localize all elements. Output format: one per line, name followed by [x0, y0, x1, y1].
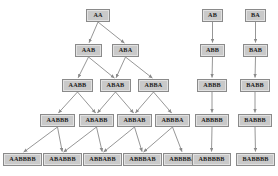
- graph-node-ababb[interactable]: ABABB: [79, 114, 114, 127]
- graph-node-abbbb[interactable]: ABBBB: [195, 114, 229, 127]
- graph-node-abbba[interactable]: ABBBA: [155, 114, 190, 127]
- graph-node-abbb[interactable]: ABBB: [197, 79, 227, 92]
- graph-node-aabb[interactable]: AABB: [62, 79, 93, 92]
- graph-node-abbab[interactable]: ABBAB: [117, 114, 152, 127]
- graph-node-abab[interactable]: ABAB: [100, 79, 131, 92]
- graph-node-ab[interactable]: AB: [202, 9, 223, 22]
- graph-node-abba[interactable]: ABBA: [138, 79, 169, 92]
- graph-node-abbbbb[interactable]: ABBBBB: [192, 153, 231, 166]
- graph-node-aa[interactable]: AA: [86, 9, 110, 22]
- node-layer: AAAABABAAABBABABABBAAABBBABABBABBABABBBA…: [0, 0, 278, 176]
- graph-node-aab[interactable]: AAB: [75, 44, 102, 57]
- graph-node-babbb[interactable]: BABBB: [238, 114, 272, 127]
- graph-node-babbbb[interactable]: BABBBB: [236, 153, 275, 166]
- graph-node-bab[interactable]: BAB: [243, 44, 268, 57]
- graph-node-aabbbb[interactable]: AABBBB: [3, 153, 42, 166]
- graph-node-abb[interactable]: ABB: [200, 44, 225, 57]
- diagram-canvas: AAAABABAAABBABABABBAAABBBABABBABBABABBBA…: [0, 0, 278, 176]
- graph-node-ababbb[interactable]: ABABBB: [43, 153, 82, 166]
- graph-node-babb[interactable]: BABB: [240, 79, 270, 92]
- graph-node-aabbb[interactable]: AABBB: [40, 114, 75, 127]
- graph-node-aba[interactable]: ABA: [112, 44, 139, 57]
- graph-node-abbabb[interactable]: ABBABB: [83, 153, 122, 166]
- graph-node-abbbab[interactable]: ABBBAB: [123, 153, 162, 166]
- graph-node-ba[interactable]: BA: [245, 9, 266, 22]
